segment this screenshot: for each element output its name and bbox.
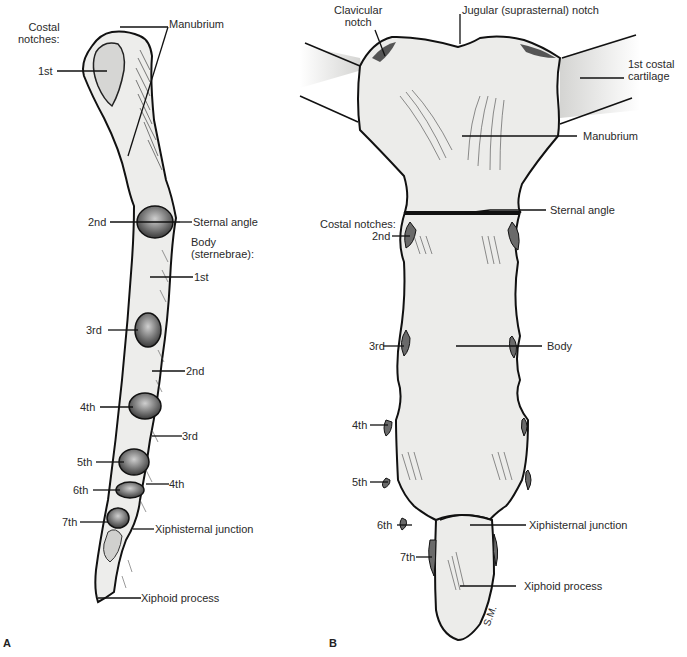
b-label-notch-3rd: 3rd (369, 340, 385, 352)
b-label-manubrium: Manubrium (583, 130, 638, 142)
a-label-costal-notches: Costal notches: (18, 21, 60, 45)
panel-label-b: B (329, 637, 337, 649)
a-costal-heading-line1: Costal (18, 21, 60, 33)
b-cartilage-line2: cartilage (628, 70, 674, 82)
anterior-manubrium (358, 36, 560, 212)
anterior-body (396, 212, 528, 522)
left-clavicle (300, 45, 362, 88)
b-label-clavicular-notch: Clavicular notch (334, 4, 382, 28)
a-label-notch-1st: 1st (38, 65, 53, 77)
b-label-costal-notches: Costal notches: (320, 218, 396, 230)
a-label-notch-5th: 5th (77, 456, 92, 468)
b-label-sternal-angle: Sternal angle (550, 204, 615, 216)
b-label-notch-6th: 6th (377, 519, 392, 531)
a-label-xiphoid-process: Xiphoid process (141, 592, 219, 604)
b-label-body: Body (547, 340, 572, 352)
a-label-notch-6th: 6th (73, 484, 88, 496)
sternum-illustration (0, 0, 687, 657)
a-costal-heading-line2: notches: (18, 33, 60, 45)
a-label-sternebra-4th: 4th (169, 478, 184, 490)
panel-label-a: A (3, 637, 11, 649)
lateral-notch-4th (129, 393, 161, 419)
b-label-xiphisternal-junction: Xiphisternal junction (529, 519, 627, 531)
panel-b-anterior-sternum (300, 14, 640, 640)
a-label-notch-7th: 7th (62, 516, 77, 528)
b-label-first-costal-cartilage: 1st costal cartilage (628, 58, 674, 82)
lateral-notch-3rd (135, 313, 161, 347)
b-label-notch-5th: 5th (352, 476, 367, 488)
lateral-notch-7th (107, 508, 129, 528)
a-label-xiphisternal-junction: Xiphisternal junction (155, 523, 253, 535)
b-cartilage-line1: 1st costal (628, 58, 674, 70)
a-label-sternal-angle: Sternal angle (193, 216, 258, 228)
lateral-notch-6th (116, 482, 144, 498)
b-label-jugular-notch: Jugular (suprasternal) notch (462, 4, 599, 16)
panel-a-lateral-sternum (57, 27, 193, 602)
a-label-notch-3rd: 3rd (86, 324, 102, 336)
b-clavicular-line1: Clavicular (334, 4, 382, 16)
b-label-xiphoid-process: Xiphoid process (524, 580, 602, 592)
a-body-heading-line2: (sternebrae): (191, 248, 254, 260)
b-label-notch-2nd: 2nd (372, 230, 390, 242)
a-label-body-sternebrae: Body (sternebrae): (191, 236, 254, 260)
a-label-notch-2nd: 2nd (88, 216, 106, 228)
a-body-heading-line1: Body (191, 236, 254, 248)
b-label-notch-4th: 4th (352, 419, 367, 431)
a-label-sternebra-1st: 1st (194, 271, 209, 283)
a-label-manubrium: Manubrium (169, 18, 224, 30)
b-clavicular-line2: notch (334, 16, 382, 28)
a-label-sternebra-2nd: 2nd (186, 365, 204, 377)
b-label-notch-7th: 7th (400, 551, 415, 563)
a-label-sternebra-3rd: 3rd (182, 430, 198, 442)
a-label-notch-4th: 4th (80, 401, 95, 413)
